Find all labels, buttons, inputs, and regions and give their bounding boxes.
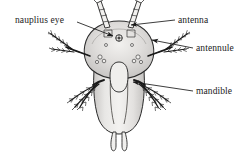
caudal-ramus-right: [122, 132, 127, 151]
caudal-ramus-left: [111, 132, 116, 151]
nauplius-eye: [116, 35, 123, 42]
body-group: [48, 0, 190, 151]
leader-antenna: [131, 20, 175, 25]
label-antenna: antenna: [178, 16, 208, 26]
figure-canvas: nauplius eye antenna antennule mandible: [0, 0, 251, 154]
label-antennule: antennule: [196, 44, 234, 54]
antenna-left: [94, 0, 110, 28]
label-nauplius-eye: nauplius eye: [15, 16, 64, 26]
labrum: [110, 62, 128, 92]
label-mandible: mandible: [196, 87, 232, 97]
